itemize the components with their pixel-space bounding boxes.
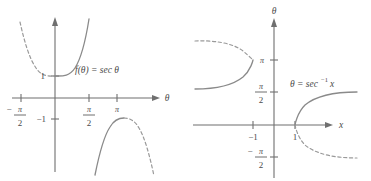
arcsecant-ytick-label-pi: π bbox=[260, 56, 265, 65]
arcsecant-graph-svg: −1 1 π π 2 − π 2 x θ bbox=[185, 0, 371, 181]
svg-text:2: 2 bbox=[87, 118, 92, 128]
secant-xtick-label-minus-pi-over-2: − π 2 bbox=[6, 104, 26, 128]
secant-equation-label: f(θ) = sec θ bbox=[75, 65, 119, 76]
arcsecant-graph-panel: −1 1 π π 2 − π 2 x θ bbox=[185, 0, 371, 181]
secant-x-axis-label: θ bbox=[165, 93, 170, 103]
arcsecant-left-branch-dashed bbox=[195, 41, 253, 60]
arcsecant-right-branch-solid bbox=[295, 92, 357, 125]
svg-text:π: π bbox=[259, 82, 264, 91]
secant-ytick-label-minus1: −1 bbox=[36, 114, 46, 124]
svg-text:θ = sec: θ = sec bbox=[290, 79, 319, 89]
arcsecant-right-branch-dashed bbox=[295, 125, 357, 158]
arcsecant-y-axis bbox=[271, 18, 277, 178]
svg-text:π: π bbox=[259, 147, 264, 156]
arcsecant-ytick-label-minus-pi-over-2: − π 2 bbox=[247, 146, 267, 170]
svg-text:−: − bbox=[247, 146, 252, 156]
secant-xtick-label-pi: π bbox=[115, 105, 120, 114]
svg-text:−1: −1 bbox=[321, 76, 328, 83]
secant-graph-svg: 1 −1 − π 2 π 2 π θ f(θ) = sec θ bbox=[0, 0, 185, 181]
arcsecant-x-axis bbox=[193, 122, 333, 128]
arcsecant-ytick-label-pi-over-2: π 2 bbox=[255, 82, 267, 105]
arcsecant-left-branch-solid bbox=[195, 60, 253, 89]
svg-text:2: 2 bbox=[18, 118, 23, 128]
svg-text:π: π bbox=[87, 105, 92, 114]
secant-branch1-dashed bbox=[20, 22, 55, 76]
figure-container: 1 −1 − π 2 π 2 π θ f(θ) = sec θ bbox=[0, 0, 371, 181]
secant-xtick-label-pi-over-2: π 2 bbox=[83, 105, 95, 128]
arcsecant-y-axis-label: θ bbox=[272, 6, 277, 16]
secant-branch2-solid bbox=[95, 118, 124, 175]
arcsecant-x-axis-label: x bbox=[338, 120, 344, 130]
svg-text:2: 2 bbox=[259, 160, 264, 170]
svg-text:2: 2 bbox=[259, 95, 264, 105]
secant-x-axis bbox=[12, 95, 160, 101]
svg-text:−: − bbox=[6, 104, 11, 114]
secant-branch2-dashed bbox=[124, 118, 154, 176]
svg-text:x: x bbox=[329, 79, 335, 89]
secant-ytick-label-1: 1 bbox=[41, 71, 46, 81]
secant-graph-panel: 1 −1 − π 2 π 2 π θ f(θ) = sec θ bbox=[0, 0, 185, 181]
arcsecant-equation-label: θ = sec −1 x bbox=[290, 76, 335, 89]
svg-text:π: π bbox=[18, 105, 23, 114]
arcsecant-xtick-label-minus1: −1 bbox=[248, 132, 258, 142]
arcsecant-xtick-label-1: 1 bbox=[293, 132, 298, 142]
secant-y-axis bbox=[52, 17, 58, 172]
